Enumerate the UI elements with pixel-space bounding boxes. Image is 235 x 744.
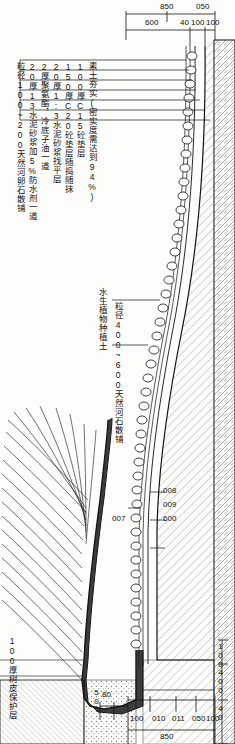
- mid-note-river-stone: 粒径400~600天然河石散铺: [112, 302, 124, 432]
- dim-bottom-050: 050: [192, 714, 205, 723]
- dim-bottom-011: 011: [172, 714, 185, 723]
- layer-note-2: 20厚13水泥砂浆加5%防水剂一道: [26, 62, 38, 212]
- dim-top-600: 600: [145, 18, 158, 27]
- dim-top-100: 100: [191, 18, 204, 27]
- drawing-canvas: 粒径100~200天然河卵石散铺 20厚13水泥砂浆加5%防水剂一道 2厚聚氨酯…: [0, 0, 235, 744]
- layer-note-6: 100厚C15砼垫层: [74, 62, 86, 212]
- dim-bottom-010: 010: [152, 714, 165, 723]
- embankment-body: [139, 40, 235, 744]
- stone-apron-right: [143, 660, 214, 744]
- dim-bottom-small-80: 80: [102, 690, 111, 699]
- dim-bottom-small-50: 50: [92, 688, 101, 706]
- dim-top-850: 850: [160, 2, 173, 11]
- mid-note-planting-soil: 水生植物种植土: [96, 288, 108, 398]
- bottom-note-bark-layer: 100厚树皮保护层: [6, 636, 18, 740]
- dim-bottom-100: 100: [130, 714, 143, 723]
- layer-note-7: 素土夯实(密实度需达到94%): [86, 62, 98, 212]
- dim-top-050: 050: [196, 2, 209, 11]
- layer-note-4: 20厚1:3水泥砂浆找平层: [50, 62, 62, 212]
- layer-note-1: 粒径100~200天然河卵石散铺: [14, 62, 26, 212]
- dim-bottom-100b: 100: [206, 714, 219, 723]
- dim-interior-009: 009: [163, 500, 176, 509]
- dim-top-100b: 100: [206, 18, 219, 27]
- layer-note-5: 150厚C20砼垫层随捣随抹: [62, 62, 74, 212]
- dim-bottom-total-850: 850: [160, 732, 173, 741]
- dim-interior-008: 008: [163, 486, 176, 495]
- dim-right-400: 400: [216, 668, 225, 698]
- layer-note-3: 2厚聚氨酯，冷底子油一道: [38, 62, 50, 212]
- dim-top-40: 40: [180, 18, 189, 27]
- ground-bottom: [0, 680, 136, 744]
- dim-interior-600: 600: [163, 514, 176, 523]
- dim-right-100: 100: [216, 642, 225, 664]
- dim-interior-007: 007: [112, 514, 125, 523]
- top-dimension-chain: [126, 11, 215, 46]
